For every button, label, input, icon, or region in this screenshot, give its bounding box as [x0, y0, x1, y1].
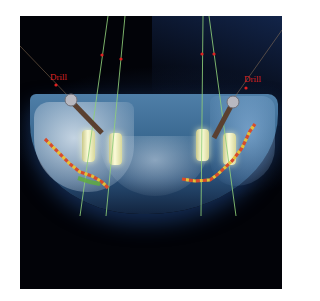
overlay-graphics [20, 16, 282, 289]
guide-lines [80, 16, 236, 216]
drill-label-right: Drill [244, 74, 261, 84]
drill-label-left: Drill [50, 72, 67, 82]
cbct-render: Drill Drill [20, 16, 282, 289]
drill-right-icon [214, 96, 239, 138]
